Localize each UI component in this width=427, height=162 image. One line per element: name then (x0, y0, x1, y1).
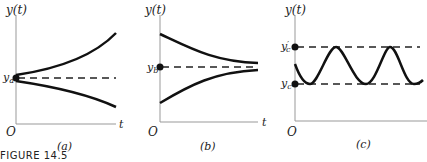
x-axis-label: t (119, 118, 124, 131)
origin-label: O (6, 125, 16, 139)
panel-label: (c) (356, 138, 371, 151)
lower-bound-point (292, 81, 299, 88)
diverging-path-upper (16, 33, 116, 75)
lower-label: yc (280, 77, 292, 91)
converging-path-lower (160, 70, 258, 103)
panel-c: y(t) O y′c yc (c) (280, 3, 427, 151)
panel-b: y(t) t O yb (b) (144, 3, 267, 153)
y-axis-label: y(t) (284, 3, 306, 17)
converging-path-upper (160, 34, 258, 63)
x-axis-label: t (262, 116, 267, 129)
equilibrium-label: yb (146, 61, 158, 75)
panel-a: y(t) t O ya (a) (2, 3, 124, 153)
origin-label: O (287, 125, 297, 139)
y-axis-label: y(t) (5, 3, 27, 17)
equilibrium-label: ya (2, 71, 14, 85)
upper-bound-point (292, 44, 299, 51)
panel-label: (b) (200, 140, 216, 153)
figure-caption: FIGURE 14.5 (0, 150, 68, 161)
oscillating-path (295, 47, 423, 84)
figure-canvas: y(t) t O ya (a) y(t) t O yb (b) y(t) O y… (0, 0, 427, 162)
upper-label: y′c (280, 39, 291, 54)
origin-label: O (148, 125, 158, 139)
y-axis-label: y(t) (144, 3, 166, 17)
diverging-path-lower (16, 81, 116, 107)
